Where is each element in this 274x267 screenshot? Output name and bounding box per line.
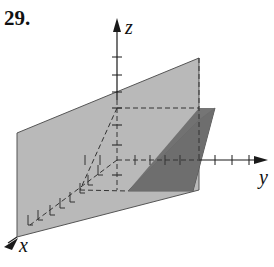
z-axis-label: z xyxy=(124,16,133,38)
z-axis-arrow-icon xyxy=(113,18,121,32)
y-axis-arrow-icon xyxy=(254,156,268,164)
x-axis-arrow-icon xyxy=(4,238,18,250)
y-axis-label: y xyxy=(257,166,268,189)
x-axis-label: x xyxy=(18,234,28,256)
3d-planes-diagram: 29. z xyxy=(0,0,274,267)
problem-number: 29. xyxy=(4,6,30,30)
